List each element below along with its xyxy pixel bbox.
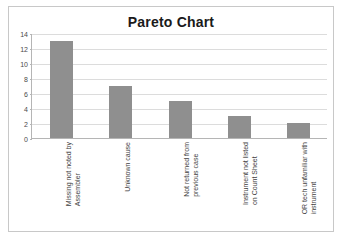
x-axis-category-label: Not returned fromprevious case: [183, 142, 200, 197]
y-axis-tick-label: 12: [20, 46, 28, 53]
chart-container: Pareto Chart 02468101214 Missing not not…: [8, 6, 334, 232]
y-axis-tick-label: 10: [20, 61, 28, 68]
x-axis-category-label: OR tech unfamiliar withinstrument: [301, 142, 318, 214]
bars-group: [32, 34, 327, 138]
x-axis-category-labels: Missing not noted byAssemblerUnknown cau…: [31, 140, 327, 232]
y-axis-tick-label: 0: [24, 136, 28, 143]
plot-wrapper: 02468101214: [31, 34, 327, 139]
bar[interactable]: [169, 101, 192, 139]
y-axis-tick-label: 4: [24, 106, 28, 113]
bar[interactable]: [50, 41, 73, 139]
y-axis-tick-label: 14: [20, 31, 28, 38]
y-axis-tick-label: 8: [24, 76, 28, 83]
x-axis-category-label: Instrument not listedon Count Sheet: [242, 142, 259, 205]
plot-area: 02468101214: [31, 34, 327, 139]
x-axis-category-label: Unknown cause: [124, 142, 133, 192]
y-axis-tick-label: 2: [24, 121, 28, 128]
bar[interactable]: [287, 123, 310, 138]
bar[interactable]: [109, 86, 132, 139]
bar[interactable]: [228, 116, 251, 139]
chart-title: Pareto Chart: [9, 14, 333, 30]
x-axis-category-label: Missing not noted byAssembler: [65, 142, 82, 206]
y-axis-tick-label: 6: [24, 91, 28, 98]
